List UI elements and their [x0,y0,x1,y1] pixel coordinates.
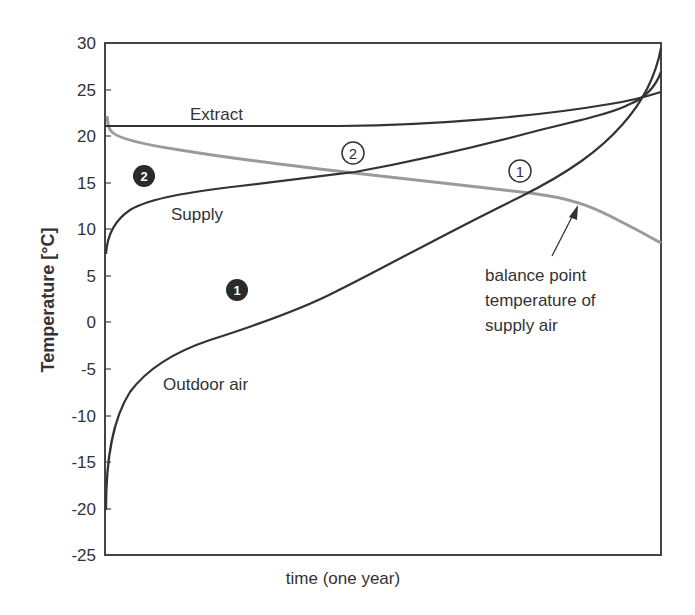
balance-point-label-line1: balance point [485,266,586,285]
y-tick-label: 5 [87,267,96,286]
y-axis-labels: 30 25 20 15 10 5 0 -5 -10 -15 -20 -25 [71,34,96,565]
svg-text:1: 1 [233,283,240,298]
y-tick-label: -20 [71,500,96,519]
marker-outlined-1: 1 [509,160,531,182]
svg-text:2: 2 [140,169,147,184]
svg-text:2: 2 [349,145,357,162]
y-tick-label: -25 [71,546,96,565]
y-tick-label: 10 [77,220,96,239]
y-tick-label: 20 [77,127,96,146]
y-tick-label: 15 [77,174,96,193]
outdoor-air-label: Outdoor air [163,375,248,394]
balance-point-label-line2: temperature of [485,291,596,310]
y-tick-label: 30 [77,34,96,53]
x-axis-title: time (one year) [286,569,400,588]
y-tick-label: -5 [81,360,96,379]
y-tick-label: -15 [71,453,96,472]
y-tick-label: -10 [71,407,96,426]
y-axis-title: Temperature [°C] [38,228,58,373]
supply-label: Supply [171,205,223,224]
y-tick-label: 0 [87,313,96,332]
marker-outlined-2: 2 [342,142,364,164]
temperature-chart: 30 25 20 15 10 5 0 -5 -10 -15 -20 -25 Te… [0,0,695,615]
svg-text:1: 1 [516,163,524,180]
balance-point-arrow [552,205,578,256]
marker-filled-2: 2 [133,165,155,187]
y-tick-label: 25 [77,81,96,100]
extract-label: Extract [190,105,243,124]
marker-filled-1: 1 [226,279,248,301]
balance-point-label-line3: supply air [485,316,558,335]
